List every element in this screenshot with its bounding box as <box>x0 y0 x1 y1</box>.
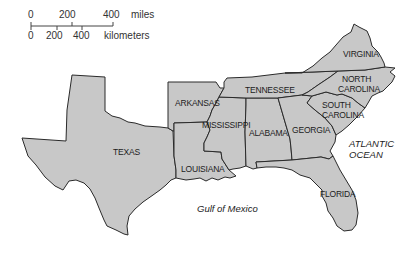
label-atlantic-1: ATLANTIC <box>348 138 394 149</box>
scale-km-200: 200 <box>46 30 63 41</box>
label-virginia: VIRGINIA <box>343 49 379 59</box>
scale-miles-200: 200 <box>59 9 76 20</box>
label-north-carolina-1: NORTH <box>342 74 371 84</box>
label-south-carolina-2: CAROLINA <box>322 110 364 120</box>
scale-bar: 0 200 400 miles 0 200 400 kilometers <box>28 9 154 41</box>
label-gulf-of-mexico: Gulf of Mexico <box>197 203 258 214</box>
scale-km-400: 400 <box>73 30 90 41</box>
label-texas: TEXAS <box>113 147 140 157</box>
scale-miles-0: 0 <box>28 9 34 20</box>
label-louisiana: LOUISIANA <box>181 164 225 174</box>
label-georgia: GEORGIA <box>292 125 331 135</box>
scale-km-0: 0 <box>28 30 34 41</box>
label-north-carolina-2: CAROLINA <box>338 84 380 94</box>
label-mississippi: MISSISSIPPI <box>202 120 250 130</box>
label-tennessee: TENNESSEE <box>245 85 295 95</box>
label-south-carolina-1: SOUTH <box>322 100 351 110</box>
label-arkansas: ARKANSAS <box>175 98 220 108</box>
scale-miles-unit: miles <box>131 9 154 20</box>
scale-miles-400: 400 <box>103 9 120 20</box>
southern-states-map: 0 200 400 miles 0 200 400 kilometers TEX… <box>0 0 415 253</box>
scale-km-unit: kilometers <box>104 30 150 41</box>
label-florida: FLORIDA <box>320 189 356 199</box>
label-alabama: ALABAMA <box>249 128 288 138</box>
label-atlantic-2: OCEAN <box>349 149 383 160</box>
state-texas[interactable] <box>22 75 176 235</box>
